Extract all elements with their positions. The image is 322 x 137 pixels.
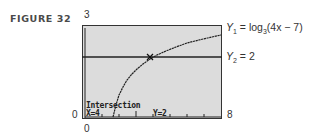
legend-y2-expr: = 2 [237,50,255,62]
legend-y1-name: Y [226,21,233,33]
figure-label: FIGURE 32 [10,13,71,24]
ymin-label: 0 [84,124,90,134]
legend-y1-expr: = log [237,21,263,33]
legend-y1-arg: (4x − 7) [267,21,303,33]
status-y-value: Y=2 [153,110,167,118]
legend-y2-name: Y [226,50,233,62]
xmax-label: 8 [227,110,233,120]
xmin-label: 0 [72,110,78,120]
legend-y1: Y1 = log3(4x − 7) [226,21,303,35]
legend-y2: Y2 = 2 [226,50,255,64]
status-x-value: X=4 [86,110,100,118]
ymax-label: 3 [84,10,90,20]
